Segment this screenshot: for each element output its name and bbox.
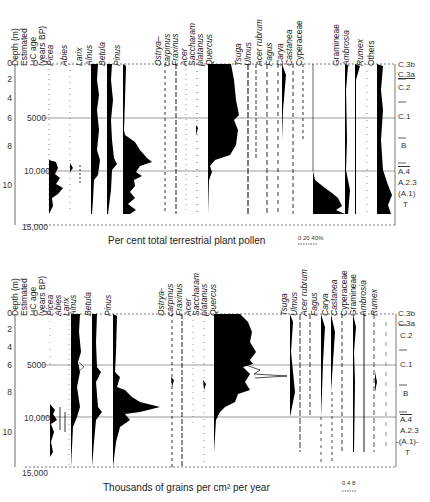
influx-pollen-diagram: Depth (m) Estimated ¹⁴C age (years BP) P…: [0, 252, 430, 502]
influx-curves: [0, 252, 430, 502]
percent-pollen-diagram: Depth (m) Estimated ¹⁴C age (years BP) P…: [0, 0, 430, 250]
pollen-curves: [0, 0, 430, 250]
